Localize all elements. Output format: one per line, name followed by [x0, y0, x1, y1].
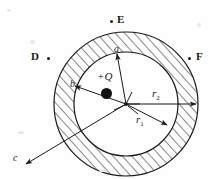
radius-label-b: b: [70, 79, 75, 89]
radius-label-a: a: [114, 44, 119, 54]
point-charge-dot: [101, 88, 112, 99]
point-dot-f: [188, 57, 191, 60]
charge-label: +Q: [97, 71, 112, 82]
scan-speck: [197, 23, 201, 27]
point-dot-e: [110, 20, 113, 23]
scan-speck: [30, 40, 35, 44]
scan-speck: [99, 169, 106, 172]
point-label-e: E: [117, 14, 124, 25]
scan-speck: [18, 131, 24, 134]
radius-label-r1: r1: [136, 114, 144, 128]
center-point: [124, 102, 128, 106]
radius-label-r2-sub: 2: [156, 94, 160, 102]
radius-label-r2: r2: [152, 88, 160, 102]
scan-speck: [7, 9, 11, 12]
point-label-f: F: [196, 51, 203, 62]
radius-label-c: c: [13, 153, 17, 163]
point-label-d: D: [31, 51, 39, 62]
point-dot-d: [47, 57, 50, 60]
radius-label-r1-sub: 1: [140, 120, 144, 128]
physics-diagram: D E F +Q a b c r1 r2: [0, 0, 215, 179]
